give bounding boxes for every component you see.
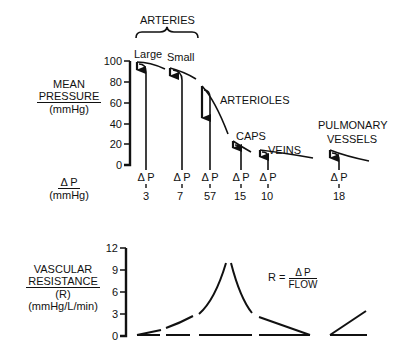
delta-p-value-caps: 15 xyxy=(227,190,253,202)
delta-p-symbol: Δ P xyxy=(197,171,223,183)
label-caps: CAPS xyxy=(236,130,266,142)
delta-p-symbol: Δ P xyxy=(326,171,352,183)
label-pulmonary-2: VESSELS xyxy=(327,133,377,145)
resistance-tick: 9 xyxy=(96,265,118,276)
label-small: Small xyxy=(167,51,195,63)
resistance-tick: 12 xyxy=(96,243,118,254)
delta-p-value-small: 7 xyxy=(167,190,193,202)
delta-p-symbol: Δ P xyxy=(133,171,159,183)
delta-p-symbol: Δ P xyxy=(169,171,195,183)
delta-p-symbol: Δ P xyxy=(228,171,254,183)
delta-p-value-veins: 10 xyxy=(254,190,280,202)
delta-p-value-large: 3 xyxy=(133,190,159,202)
delta-p-value-arterioles: 57 xyxy=(197,190,223,202)
label-large: Large xyxy=(134,48,162,60)
pressure-tick: 80 xyxy=(100,77,122,88)
delta-p-title: Δ P (mmHg) xyxy=(14,176,124,201)
delta-p-symbol: Δ P xyxy=(255,171,281,183)
resistance-formula: R = Δ P FLOW xyxy=(268,267,317,290)
pressure-tick: 100 xyxy=(100,56,122,67)
pressure-tick: 40 xyxy=(100,119,122,130)
pressure-tick: 0 xyxy=(100,160,122,171)
resistance-tick: 6 xyxy=(96,287,118,298)
pressure-tick: 20 xyxy=(100,139,122,150)
pressure-axis xyxy=(124,61,130,165)
pressure-curve-caps xyxy=(233,141,251,152)
pressure-curve-pulmonary xyxy=(330,150,369,161)
arteries-brace xyxy=(136,27,198,38)
label-veins: VEINS xyxy=(268,144,301,156)
label-pulmonary-1: PULMONARY xyxy=(318,119,387,131)
pressure-curve-large xyxy=(137,62,165,69)
pressure-tick: 60 xyxy=(100,98,122,109)
resistance-tick: 0 xyxy=(96,331,118,342)
delta-p-value-pulmonary: 18 xyxy=(326,190,352,202)
label-arteries: ARTERIES xyxy=(140,14,195,26)
label-arterioles: ARTERIOLES xyxy=(220,94,290,106)
resistance-tick: 3 xyxy=(96,309,118,320)
